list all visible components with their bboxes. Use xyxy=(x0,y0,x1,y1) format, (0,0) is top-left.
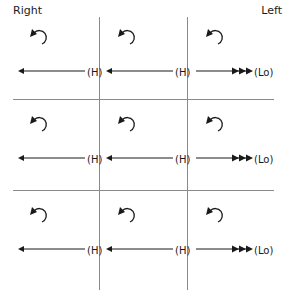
arrow-left-icon xyxy=(18,246,85,252)
arrowhead xyxy=(246,155,253,162)
arrow-right-multi-icon xyxy=(196,68,253,75)
arrowhead xyxy=(232,68,239,75)
low-label: (Lo) xyxy=(254,154,273,165)
counterclockwise-curl-icon xyxy=(206,207,222,222)
cell-graphic xyxy=(12,193,100,284)
grid-cell: (H) xyxy=(100,102,188,193)
arrow-left-icon xyxy=(106,246,173,252)
arrow-right-multi-icon xyxy=(196,155,253,162)
arrowhead xyxy=(239,68,246,75)
grid-cell: (H) xyxy=(12,15,100,106)
cell-graphic xyxy=(12,15,100,106)
arrow-left-icon xyxy=(18,68,85,74)
arrowhead xyxy=(246,246,253,253)
counterclockwise-curl-icon xyxy=(118,29,134,44)
grid-cell: (H) xyxy=(100,15,188,106)
cell-graphic xyxy=(188,102,276,193)
cell-graphic xyxy=(100,15,188,106)
counterclockwise-curl-icon xyxy=(206,116,222,131)
grid-cell: (H) xyxy=(100,193,188,284)
grid-cell: (H) xyxy=(12,102,100,193)
counterclockwise-curl-icon xyxy=(206,29,222,44)
counterclockwise-curl-icon xyxy=(30,207,46,222)
cell-graphic xyxy=(100,102,188,193)
counterclockwise-curl-icon xyxy=(30,29,46,44)
counterclockwise-curl-icon xyxy=(118,116,134,131)
counterclockwise-curl-icon xyxy=(30,116,46,131)
arrowhead xyxy=(239,246,246,253)
cell-graphic xyxy=(188,193,276,284)
arrow-left-icon xyxy=(106,155,173,161)
arrowhead xyxy=(232,155,239,162)
cell-graphic xyxy=(12,102,100,193)
arrowhead xyxy=(246,68,253,75)
arrow-left-icon xyxy=(18,155,85,161)
grid-cell: (Lo) xyxy=(188,193,276,284)
arrow-right-multi-icon xyxy=(196,246,253,253)
arrow-left-icon xyxy=(106,68,173,74)
arrowhead xyxy=(232,246,239,253)
low-label: (Lo) xyxy=(254,245,273,256)
cell-graphic xyxy=(100,193,188,284)
cell-graphic xyxy=(188,15,276,106)
arrowhead xyxy=(239,155,246,162)
grid-cell: (Lo) xyxy=(188,102,276,193)
low-label: (Lo) xyxy=(254,67,273,78)
grid-cell: (Lo) xyxy=(188,15,276,106)
counterclockwise-curl-icon xyxy=(118,207,134,222)
grid-cell: (H) xyxy=(12,193,100,284)
